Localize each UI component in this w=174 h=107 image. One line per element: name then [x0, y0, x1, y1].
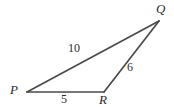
vertex-label-q: Q — [156, 2, 165, 15]
side-length-pq: 10 — [68, 42, 80, 54]
segment-rq — [104, 21, 159, 92]
vertex-label-r: R — [99, 93, 107, 106]
segment-pq — [27, 21, 159, 92]
side-length-rq: 6 — [127, 61, 133, 73]
triangle-figure: P Q R 10 6 5 — [0, 0, 174, 107]
triangle-diagram — [0, 0, 174, 107]
side-length-pr: 5 — [61, 93, 67, 105]
vertex-label-p: P — [10, 83, 18, 96]
